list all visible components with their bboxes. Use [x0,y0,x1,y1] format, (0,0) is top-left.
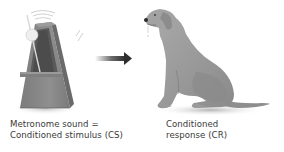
conditioned-response-caption: Conditioned response (CR) [166,119,227,141]
caption-cr-line2: response (CR) [166,130,227,141]
conditioning-diagram: Metronome sound = Conditioned stimulus (… [0,0,284,152]
caption-cr-line1: Conditioned [166,119,227,130]
dog-icon [144,9,270,116]
conditioned-stimulus-caption: Metronome sound = Conditioned stimulus (… [10,119,123,141]
caption-cs-line2: Conditioned stimulus (CS) [10,130,123,141]
caption-cs-line1: Metronome sound = [10,119,123,130]
metronome-icon [11,11,83,116]
arrow-right-icon [95,52,132,65]
